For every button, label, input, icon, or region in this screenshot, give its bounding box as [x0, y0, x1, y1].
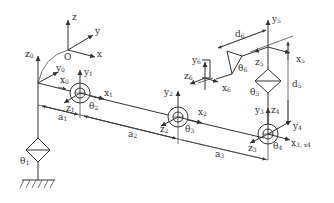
frame5-y-label: y5 [272, 15, 281, 24]
frame3-y-label: y3 [255, 106, 264, 115]
world-y-label: y [95, 27, 100, 36]
frame2-x-label: x2 [198, 108, 207, 117]
frame-0 [38, 56, 58, 83]
world-z-label: z [72, 13, 77, 22]
world-origin-label: O [64, 53, 71, 62]
diagram-lines [0, 0, 334, 203]
frame2-y-label: y2 [164, 88, 173, 97]
theta1-label: θ1 [20, 157, 29, 166]
frame3-x-label: x3, x4 [291, 139, 311, 148]
frame6-z-label: z6 [184, 72, 193, 81]
frame4-z-label: z4 [271, 106, 280, 115]
frame4-y-label: y4 [293, 122, 302, 131]
frame6-y-label: y6 [192, 56, 201, 65]
frame5-z-label: z5 [255, 58, 264, 67]
theta2-label: θ2 [89, 102, 98, 111]
frame1-z-label: z1 [66, 104, 75, 113]
theta5-label: θ5 [250, 88, 259, 97]
frame5-x-label: x5 [296, 55, 305, 64]
robot-arm-diagram: z y x O z0 y0 x0 y1 x1 z1 θ2 y2 x2 z2 θ3… [0, 0, 334, 203]
frame0-y-label: y0 [56, 64, 65, 73]
frame1-y-label: y1 [84, 68, 93, 77]
frame1-x-label: x1 [104, 89, 113, 98]
frame3-z-label: z3 [248, 144, 257, 153]
theta4-label: θ4 [273, 142, 282, 151]
frame6-x-label: x6 [222, 84, 231, 93]
a3-label: a3 [215, 150, 224, 159]
frame0-z-label: z0 [25, 50, 34, 59]
world-x-label: x [97, 50, 102, 59]
theta6-label: θ6 [238, 64, 247, 73]
d5-label: d5 [292, 80, 302, 89]
theta3-label: θ3 [185, 125, 194, 134]
frame0-x-label: x0 [60, 76, 69, 85]
a1-label: a1 [58, 113, 67, 122]
frame2-z-label: z2 [160, 125, 169, 134]
d6-label: d6 [235, 30, 245, 39]
a2-label: a2 [128, 130, 137, 139]
base-link [20, 83, 55, 188]
